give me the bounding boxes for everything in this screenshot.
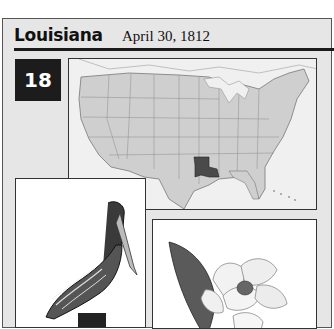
header-rule [14, 48, 334, 51]
state-flower-panel [152, 219, 317, 329]
pelican-icon [16, 179, 146, 328]
state-name: Louisiana [14, 25, 103, 45]
state-bird-panel [15, 178, 146, 328]
magnolia-icon [153, 220, 317, 329]
order-badge: 18 [15, 59, 61, 101]
statehood-date: April 30, 1812 [122, 28, 210, 45]
order-number: 18 [24, 68, 52, 92]
